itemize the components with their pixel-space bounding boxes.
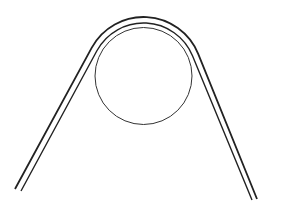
belt-outer-line [15,17,257,199]
belt-inner-line [21,23,252,200]
belt-pulley-diagram: Belt or rope passing over a circular pul… [0,0,281,213]
pulley-wheel [95,28,192,125]
